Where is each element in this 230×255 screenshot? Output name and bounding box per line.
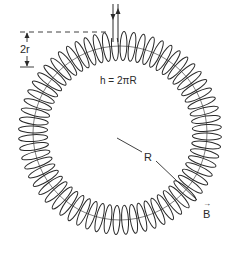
coil-windings [18, 30, 221, 235]
length-label: h = 2πR [100, 75, 137, 86]
field-label: B [203, 208, 210, 220]
arrow-down-icon [25, 61, 30, 67]
radius-label: R [144, 151, 152, 163]
toroid-drawing: 2r h = 2πR R → B [0, 0, 230, 255]
field-label-group: → B [203, 199, 211, 220]
vector-arrow-mark: → [203, 199, 211, 208]
diameter-label: 2r [20, 43, 30, 55]
arrow-up-icon [25, 33, 30, 39]
lead-gap [111, 30, 120, 38]
radius-line-inner [117, 138, 142, 152]
arrow-down-icon [111, 14, 116, 20]
toroid-diagram: 2r h = 2πR R → B [0, 0, 230, 255]
arrow-up-icon [116, 8, 121, 14]
